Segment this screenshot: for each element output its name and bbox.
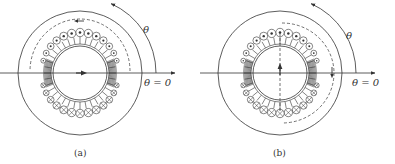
- caption-a: (a): [74, 148, 86, 158]
- diagram-canvas: (a) (b) θ θ = 0 θ θ = 0: [0, 0, 395, 164]
- figure-b: [200, 4, 375, 135]
- caption-b: (b): [273, 148, 286, 158]
- theta-label-a: θ: [143, 24, 149, 35]
- theta-zero-label-b: θ = 0: [352, 77, 380, 88]
- theta-label-b: θ: [346, 30, 352, 41]
- theta-zero-label-a: θ = 0: [144, 77, 172, 88]
